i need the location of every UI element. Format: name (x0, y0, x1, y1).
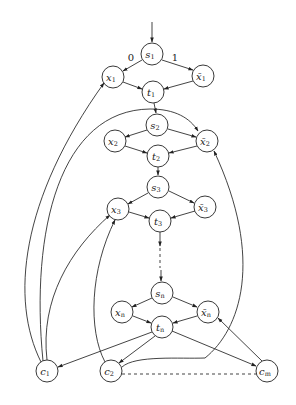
edge-x1-t1 (123, 82, 142, 89)
edge-xbar3-t3 (171, 211, 195, 218)
node-xbar2: x̄2 (196, 130, 218, 152)
edge-sn-xbarn (173, 297, 197, 307)
edge-xbar2-t2 (169, 146, 197, 153)
edge-s3-xbar3 (169, 191, 194, 203)
node-t3: t3 (149, 210, 171, 232)
node-t2: t2 (147, 145, 169, 167)
node-xbar1: x̄1 (192, 65, 214, 87)
node-xn: xn (111, 301, 133, 323)
edge-c1-x1 (25, 83, 104, 362)
edge-t1-s2 (154, 103, 156, 113)
edge-x2-t2 (125, 146, 147, 153)
node-x3: x3 (107, 198, 129, 220)
edge-label-0: 0 (128, 52, 134, 63)
node-s2: s2 (146, 114, 168, 136)
edge-s2-x2 (125, 130, 147, 137)
edge-c1-x3 (46, 215, 110, 360)
edge-sn-xn (132, 298, 152, 307)
edge-label-1: 1 (172, 52, 178, 63)
node-c1: c1 (36, 360, 58, 382)
edge-c2-x3 (94, 220, 115, 362)
edge-s3-x3 (128, 193, 148, 204)
edge-x3-t3 (129, 212, 149, 218)
node-xbar3: x̄3 (194, 196, 216, 218)
edge-xn-tn (133, 316, 151, 323)
node-t1: t1 (142, 81, 164, 103)
edge-xbarn-tn (173, 316, 197, 323)
graph-diagram: 0 1 s1 x1 x̄1 t1 s2 x2 x̄2 t2 s3 x3 x̄3 … (0, 0, 296, 405)
node-s3: s3 (147, 176, 169, 198)
node-x1: x1 (102, 66, 124, 88)
node-x2: x2 (104, 130, 126, 152)
node-cm: cm (256, 360, 278, 382)
node-c2: c2 (100, 360, 122, 382)
node-sn: sn (151, 282, 173, 304)
edge-c2-xbar2 (122, 151, 243, 367)
edge-cm-xbarn (218, 318, 262, 361)
node-s1: s1 (141, 43, 163, 65)
node-tn: tn (151, 316, 173, 338)
edge-xbar1-t1 (164, 81, 193, 89)
node-xbarn: x̄n (197, 301, 219, 323)
edge-s2-xbar2 (168, 129, 196, 137)
edge-tn-cm (172, 331, 256, 366)
